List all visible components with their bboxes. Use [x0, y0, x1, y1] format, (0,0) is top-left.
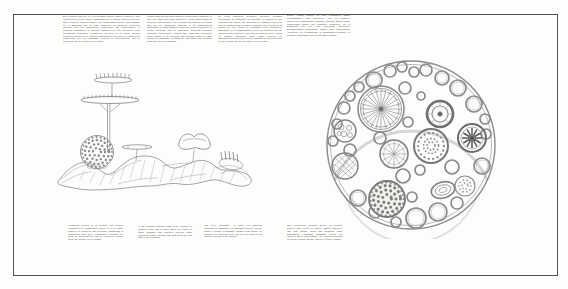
text-column-right-page: Solche Häuser würden zu einer bestimmten…: [287, 14, 350, 36]
radial-umbrella-cell: [380, 140, 408, 168]
top-fringe: [96, 73, 129, 79]
circular-cluster-pencil-sketch: [320, 53, 504, 239]
honeycomb-sphere-cell: [369, 181, 405, 217]
saddle-canopy: [179, 134, 211, 162]
crosshatch-cell: [332, 153, 358, 179]
concentric-ellipse-cell: [429, 179, 456, 201]
text-column-top-left: Een dergelijk huis zou tot een bepaalde …: [63, 15, 140, 43]
paragraph: Voorsteden zouden in de morgen zich kunn…: [68, 224, 123, 240]
rose-target-cell: [427, 101, 453, 127]
geodesic-dome: [81, 136, 114, 170]
text-column-bottom-right: Une étoile étincelante. Au matin, les ba…: [204, 224, 262, 238]
berry-cell: [334, 120, 356, 142]
paragraph: Een dergelijk huis zou tot een bepaalde …: [63, 15, 140, 42]
paragraph: De telles demeures pourraient atteindre …: [218, 15, 282, 42]
starburst-cell: [458, 124, 486, 152]
paragraph: In the morning suburbs might come togeth…: [138, 225, 192, 239]
stipple-cell: [455, 176, 475, 196]
book-spread: Een dergelijk huis zou tot een bepaalde …: [0, 0, 568, 289]
text-column-bottom-left: Voorsteden zouden in de morgen zich kunn…: [68, 224, 123, 241]
text-column-top-right: De telles demeures pourraient atteindre …: [218, 15, 282, 43]
paragraph: Une étoile étincelante. Au matin, les ba…: [204, 224, 262, 238]
paragraph: Solche Häuser würden zu einer bestimmten…: [287, 14, 350, 36]
text-column-top-center: Houses such as this would grow to certai…: [147, 15, 212, 43]
structure-body: [58, 156, 252, 190]
text-column-bottom-center: In the morning suburbs might come togeth…: [138, 225, 192, 239]
paragraph: Houses such as this would grow to certai…: [147, 15, 212, 42]
winged-structure-pencil-sketch: [40, 58, 275, 210]
platform-fringe: [84, 95, 136, 100]
spoked-wheel-cell: [358, 86, 404, 132]
